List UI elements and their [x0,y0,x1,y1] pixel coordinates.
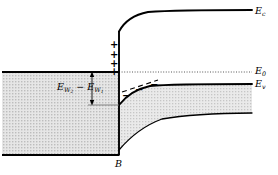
label-ev: Ev [255,79,265,90]
label-e0: E0 [255,66,266,77]
negative-charge-symbol: − [122,91,130,101]
conduction-band-curve [119,10,252,32]
negative-charge-symbol: − [150,80,158,90]
label-ec: Ec [255,6,265,17]
band-diagram-figure: Ec E0 Ev B EW2 − EW1 + + + + − − − [0,0,278,175]
positive-charge-symbol: + [110,67,118,77]
negative-charge-symbol: − [135,85,143,95]
label-junction-b: B [115,159,122,169]
label-energy-difference: EW2 − EW1 [57,82,104,94]
